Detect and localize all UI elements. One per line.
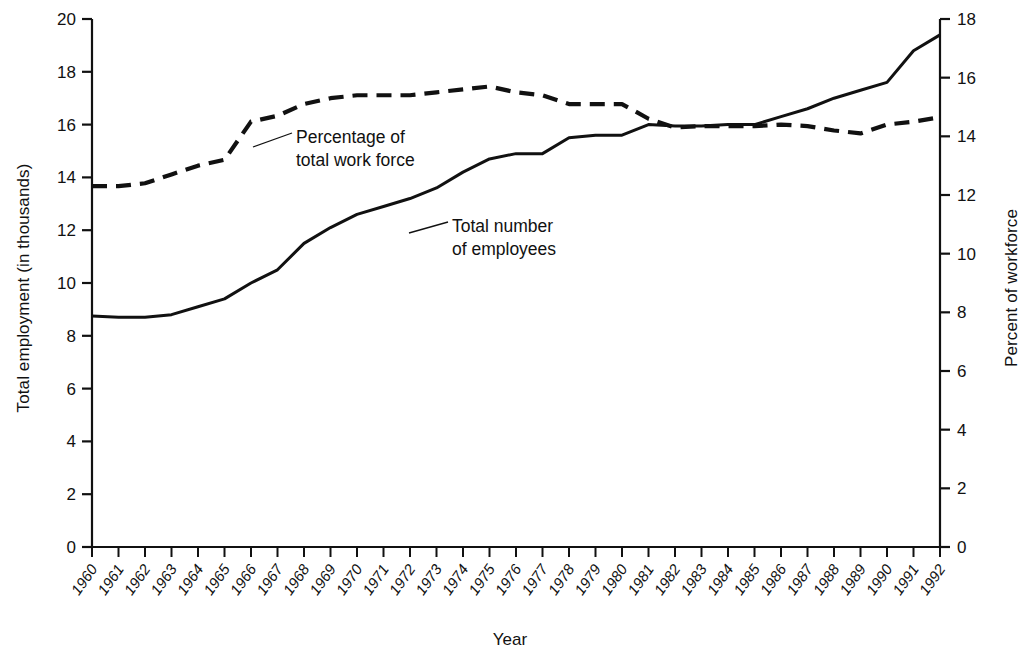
svg-text:1960: 1960 [67,560,100,598]
svg-text:1987: 1987 [783,560,816,598]
x-axis-title: Year [0,630,1020,650]
svg-text:6: 6 [957,362,966,381]
y-axis-left-ticks: 02468101214161820 [57,10,92,557]
y-axis-left-title: Total employment (in thousands) [14,138,34,438]
svg-text:1992: 1992 [915,560,948,598]
line-chart-plot: 02468101214161820 024681012141618 196019… [0,0,1020,654]
data-series [92,35,940,317]
svg-text:14: 14 [57,168,76,187]
svg-text:1964: 1964 [173,561,206,598]
svg-text:2: 2 [67,485,76,504]
svg-text:1982: 1982 [650,560,683,598]
svg-text:16: 16 [957,69,976,88]
series-line-dashed [92,86,940,186]
svg-text:1976: 1976 [491,560,524,598]
svg-text:1967: 1967 [253,560,286,598]
svg-text:16: 16 [57,116,76,135]
svg-text:1978: 1978 [544,560,577,598]
svg-text:0: 0 [67,538,76,557]
svg-text:1985: 1985 [730,560,763,598]
svg-text:1968: 1968 [279,560,312,598]
svg-text:0: 0 [957,538,966,557]
svg-text:1973: 1973 [412,560,445,598]
svg-text:12: 12 [957,186,976,205]
svg-text:1989: 1989 [836,560,869,598]
y-axis-right-title: Percent of workforce [1002,138,1020,438]
svg-text:1963: 1963 [147,560,180,598]
svg-text:1971: 1971 [359,561,392,598]
y-axis-right-ticks: 024681012141618 [940,10,976,557]
svg-text:1981: 1981 [624,561,657,598]
chart-figure: 02468101214161820 024681012141618 196019… [0,0,1020,654]
svg-text:12: 12 [57,221,76,240]
svg-text:1979: 1979 [571,560,604,598]
svg-text:1974: 1974 [438,561,471,598]
svg-text:18: 18 [57,63,76,82]
svg-text:1984: 1984 [703,561,736,598]
svg-text:1961: 1961 [94,561,127,598]
svg-text:8: 8 [957,303,966,322]
svg-text:18: 18 [957,10,976,29]
annotation-percentage-of-total-work-force: Percentage of total work force [296,126,415,172]
svg-text:1977: 1977 [518,560,551,598]
svg-text:1990: 1990 [862,560,895,598]
svg-text:1975: 1975 [465,560,498,598]
svg-text:1980: 1980 [597,560,630,598]
x-axis-ticks: 1960196119621963196419651966196719681969… [67,547,948,598]
svg-text:1962: 1962 [120,560,153,598]
svg-text:6: 6 [67,380,76,399]
annotation-total-number-of-employees: Total number of employees [452,215,556,261]
svg-text:1969: 1969 [306,560,339,598]
svg-text:10: 10 [57,274,76,293]
svg-text:14: 14 [957,127,976,146]
series-line-solid [92,35,940,317]
svg-text:4: 4 [67,432,76,451]
svg-text:20: 20 [57,10,76,29]
svg-text:1966: 1966 [226,560,259,598]
svg-text:1988: 1988 [809,560,842,598]
svg-text:2: 2 [957,479,966,498]
svg-text:10: 10 [957,245,976,264]
svg-text:1991: 1991 [889,561,922,598]
svg-text:1972: 1972 [385,560,418,598]
axes [83,19,949,547]
svg-text:1965: 1965 [200,560,233,598]
svg-text:8: 8 [67,327,76,346]
svg-text:1970: 1970 [332,560,365,598]
svg-text:4: 4 [957,421,966,440]
svg-text:1983: 1983 [677,560,710,598]
svg-text:1986: 1986 [756,560,789,598]
